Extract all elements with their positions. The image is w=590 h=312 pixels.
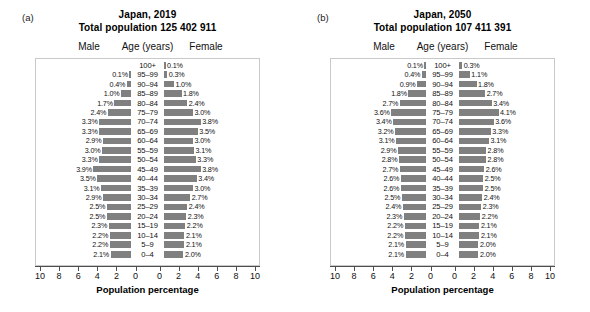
female-bar-cell: 3.5% — [164, 127, 259, 136]
panel-a-rows: 100+0.1%0.1%95–990.3%0.4%90–941.0%1.0%85… — [36, 59, 259, 265]
axis-tick — [392, 266, 393, 271]
age-group-label: 45–49 — [426, 164, 460, 173]
age-group-row: 2.9%55–592.8% — [331, 146, 554, 155]
male-bar-cell: 1.7% — [36, 98, 131, 107]
male-bar — [401, 185, 426, 192]
age-group-label: 55–59 — [131, 146, 165, 155]
female-bar-cell: 2.0% — [459, 250, 554, 259]
male-value-label: 2.4% — [90, 108, 106, 117]
female-bar — [459, 204, 481, 211]
axis-tick-label: 8 — [352, 271, 357, 281]
female-bar-cell: 2.6% — [459, 164, 554, 173]
panel-a-column-headers: Male Age (years) Female — [35, 41, 260, 55]
column-header-male: Male — [373, 41, 395, 52]
female-bar — [459, 241, 478, 248]
age-group-label: 100+ — [131, 61, 165, 70]
female-value-label: 2.1% — [186, 231, 202, 240]
age-group-label: 85–89 — [131, 89, 165, 98]
male-value-label: 2.4% — [385, 202, 401, 211]
female-value-label: 2.8% — [488, 146, 504, 155]
male-bar — [402, 194, 426, 201]
female-bar — [459, 232, 479, 239]
age-group-row: 2.1%5–92.0% — [331, 240, 554, 249]
age-group-row: 2.7%45–492.6% — [331, 164, 554, 173]
panel-b-subtitle: Total population 107 411 391 — [295, 22, 590, 35]
male-value-label: 2.3% — [386, 212, 402, 221]
male-bar — [114, 100, 130, 107]
male-value-label: 2.7% — [383, 99, 399, 108]
male-value-label: 2.1% — [388, 240, 404, 249]
female-bar-cell: 2.8% — [459, 155, 554, 164]
male-value-label: 0.4% — [110, 80, 126, 89]
female-value-label: 2.1% — [186, 240, 202, 249]
age-group-label: 90–94 — [131, 79, 165, 88]
axis-tick — [40, 266, 41, 271]
female-value-label: 3.1% — [195, 146, 211, 155]
female-bar — [459, 128, 491, 135]
female-bar — [164, 166, 200, 173]
axis-tick — [474, 266, 475, 271]
female-value-label: 2.7% — [192, 193, 208, 202]
male-value-label: 3.0% — [85, 146, 101, 155]
female-bar — [459, 213, 480, 220]
female-bar-cell: 2.4% — [459, 193, 554, 202]
male-bar-cell: 3.3% — [36, 127, 131, 136]
male-bar — [422, 71, 426, 78]
male-bar — [97, 175, 130, 182]
male-value-label: 0.9% — [400, 80, 416, 89]
female-bar-cell: 2.7% — [459, 89, 554, 98]
age-group-label: 10–14 — [131, 231, 165, 240]
population-pyramid-figure: (a) Japan, 2019 Total population 125 402… — [0, 0, 590, 312]
age-group-label: 50–54 — [426, 155, 460, 164]
female-bar-cell: 1.0% — [164, 79, 259, 88]
male-bar-cell: 2.3% — [331, 212, 426, 221]
male-bar — [400, 166, 426, 173]
male-bar — [424, 62, 425, 69]
male-bar-cell: 2.7% — [331, 164, 426, 173]
female-value-label: 2.5% — [485, 174, 501, 183]
female-bar-cell: 1.8% — [459, 79, 554, 88]
axis-tick — [160, 266, 161, 271]
male-value-label: 2.2% — [92, 240, 108, 249]
axis-tick-label: 6 — [76, 271, 81, 281]
female-bar-cell: 2.2% — [459, 212, 554, 221]
age-group-row: 0.9%90–941.8% — [331, 79, 554, 88]
female-bar-cell: 2.8% — [459, 146, 554, 155]
male-value-label: 3.3% — [82, 127, 98, 136]
axis-tick — [431, 266, 432, 271]
age-group-label: 75–79 — [426, 108, 460, 117]
age-group-label: 5–9 — [426, 240, 460, 249]
age-group-row: 3.4%70–743.6% — [331, 117, 554, 126]
age-group-row: 2.9%30–342.7% — [36, 193, 259, 202]
male-value-label: 2.9% — [86, 193, 102, 202]
female-bar — [459, 223, 479, 230]
female-bar-cell: 0.3% — [459, 61, 554, 70]
male-bar-cell: 0.1% — [36, 70, 131, 79]
female-value-label: 2.2% — [187, 221, 203, 230]
age-group-row: 2.2%10–142.1% — [36, 231, 259, 240]
age-group-row: 3.3%50–543.3% — [36, 155, 259, 164]
axis-tick — [411, 266, 412, 271]
age-group-label: 40–44 — [131, 174, 165, 183]
axis-tick — [354, 266, 355, 271]
panel-b-title: Japan, 2050 — [295, 9, 590, 22]
age-group-row: 1.0%85–891.8% — [36, 89, 259, 98]
age-group-row: 2.2%5–92.1% — [36, 240, 259, 249]
female-bar-cell: 0.1% — [164, 61, 259, 70]
age-group-row: 0.1%100+0.3% — [331, 61, 554, 70]
female-bar-cell: 2.2% — [164, 221, 259, 230]
age-group-label: 90–94 — [426, 79, 460, 88]
female-bar-cell: 3.8% — [164, 117, 259, 126]
female-value-label: 1.1% — [471, 70, 487, 79]
female-value-label: 3.8% — [202, 165, 218, 174]
male-bar — [400, 100, 426, 107]
male-bar — [103, 138, 131, 145]
age-group-row: 3.1%60–643.1% — [331, 136, 554, 145]
age-group-row: 1.8%85–892.7% — [331, 89, 554, 98]
male-bar — [404, 213, 426, 220]
male-bar-cell: 2.9% — [36, 193, 131, 202]
male-value-label: 0.1% — [112, 70, 128, 79]
age-group-label: 95–99 — [426, 70, 460, 79]
male-bar-cell: 3.6% — [331, 108, 426, 117]
age-group-row: 2.1%0–42.0% — [331, 250, 554, 259]
